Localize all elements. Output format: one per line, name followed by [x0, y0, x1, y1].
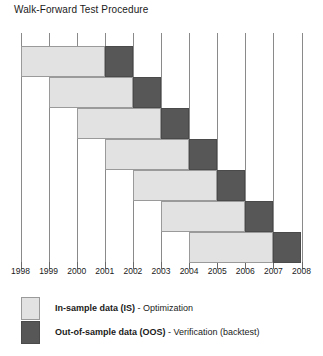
legend-swatch-oos	[21, 321, 40, 344]
bar-out-of-sample-3	[161, 108, 189, 139]
legend-label-bold-oos: Out-of-sample data (OOS)	[55, 327, 166, 337]
chart-plot-area: 1998199920002001200220032004200520062007…	[0, 0, 323, 290]
x-axis-label-2003: 2003	[147, 266, 175, 276]
bar-out-of-sample-4	[189, 139, 217, 170]
legend-label-oos: Out-of-sample data (OOS) - Verification …	[55, 327, 260, 338]
legend-label-bold-is: In-sample data (IS)	[55, 303, 135, 313]
bar-in-sample-5	[133, 170, 217, 201]
bar-out-of-sample-7	[273, 232, 301, 263]
bar-in-sample-7	[189, 232, 273, 263]
x-axis-label-2004: 2004	[175, 266, 203, 276]
x-axis-label-1999: 1999	[35, 266, 63, 276]
legend-swatch-is	[21, 297, 40, 320]
legend-item-oos: Out-of-sample data (OOS) - Verification …	[21, 320, 260, 344]
x-axis-label-2006: 2006	[231, 266, 259, 276]
chart-legend: In-sample data (IS) - OptimizationOut-of…	[0, 296, 323, 356]
gridline-2008	[302, 33, 303, 262]
x-axis-label-2002: 2002	[119, 266, 147, 276]
x-axis-label-1998: 1998	[7, 266, 35, 276]
legend-label-rest-is: - Optimization	[135, 303, 193, 313]
bar-out-of-sample-5	[217, 170, 245, 201]
x-axis-label-2005: 2005	[203, 266, 231, 276]
legend-item-is: In-sample data (IS) - Optimization	[21, 296, 193, 320]
bar-in-sample-6	[161, 201, 245, 232]
x-axis-label-2001: 2001	[91, 266, 119, 276]
bar-out-of-sample-6	[245, 201, 273, 232]
legend-label-rest-oos: - Verification (backtest)	[166, 327, 260, 337]
bar-in-sample-3	[77, 108, 161, 139]
x-axis-label-2000: 2000	[63, 266, 91, 276]
bar-out-of-sample-1	[105, 46, 133, 77]
walk-forward-chart-figure: Walk-Forward Test Procedure 199819992000…	[0, 0, 323, 356]
bar-in-sample-2	[49, 77, 133, 108]
x-axis-label-2008: 2008	[288, 266, 316, 276]
bar-in-sample-4	[105, 139, 189, 170]
bar-out-of-sample-2	[133, 77, 161, 108]
legend-label-is: In-sample data (IS) - Optimization	[55, 303, 193, 314]
x-axis-label-2007: 2007	[259, 266, 287, 276]
bar-in-sample-1	[21, 46, 105, 77]
